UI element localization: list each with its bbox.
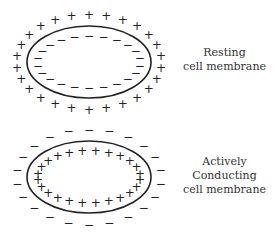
- minus-charge-outer: −: [18, 150, 28, 164]
- minus-charge-inner: −: [135, 51, 145, 65]
- minus-charge-outer: −: [12, 163, 22, 177]
- plus-charge-inner: +: [115, 191, 125, 205]
- minus-charge-outer: −: [84, 218, 94, 232]
- plus-charge-inner: +: [64, 194, 74, 208]
- plus-charge-outer: +: [156, 49, 166, 63]
- minus-charge-inner: −: [69, 80, 79, 94]
- plus-charge-outer: +: [84, 8, 94, 22]
- resting-membrane-figure: ++++++++++++++++++++++++++−−−−−−−−−−−−−−…: [12, 8, 166, 117]
- plus-charge-outer: +: [118, 97, 128, 111]
- minus-charge-outer: −: [84, 123, 94, 137]
- minus-charge-inner: −: [98, 30, 108, 44]
- membrane-diagram: ++++++++++++++++++++++++++−−−−−−−−−−−−−−…: [0, 0, 277, 235]
- plus-charge-inner: +: [91, 144, 101, 158]
- minus-charge-outer: −: [18, 190, 28, 204]
- plus-charge-outer: +: [132, 91, 142, 105]
- plus-charge-inner: +: [53, 191, 63, 205]
- plus-charge-inner: +: [104, 146, 114, 160]
- resting-membrane-label: Resting cell membrane: [172, 46, 277, 74]
- minus-charge-outer: −: [64, 216, 74, 230]
- plus-charge-outer: +: [36, 19, 46, 33]
- plus-charge-outer: +: [67, 101, 77, 115]
- minus-charge-outer: −: [156, 177, 166, 191]
- minus-charge-outer: −: [123, 130, 133, 144]
- minus-charge-inner: −: [56, 33, 66, 47]
- minus-charge-inner: −: [84, 29, 94, 43]
- minus-charge-outer: −: [104, 216, 114, 230]
- label-line: Resting: [172, 46, 277, 60]
- resting-membrane-charges: ++++++++++++++++++++++++++−−−−−−−−−−−−−−…: [12, 8, 166, 117]
- minus-charge-outer: −: [156, 163, 166, 177]
- minus-charge-outer: −: [104, 124, 114, 138]
- minus-charge-inner: −: [123, 72, 133, 86]
- active-membrane-label: Actively Conducting cell membrane: [172, 155, 277, 197]
- minus-charge-inner: −: [112, 77, 122, 91]
- plus-charge-outer: +: [118, 13, 128, 27]
- minus-charge-outer: −: [45, 130, 55, 144]
- plus-charge-outer: +: [50, 97, 60, 111]
- label-line: Actively: [172, 155, 277, 169]
- minus-charge-outer: −: [150, 150, 160, 164]
- plus-charge-outer: +: [144, 82, 154, 96]
- minus-charge-inner: −: [56, 77, 66, 91]
- minus-charge-outer: −: [29, 201, 39, 215]
- minus-charge-inner: −: [98, 80, 108, 94]
- active-membrane-charges: −−−−−−−−−−−−−−−−−−−−−−++++++++++++++++++…: [12, 123, 166, 232]
- plus-charge-inner: +: [91, 196, 101, 210]
- plus-charge-inner: +: [64, 146, 74, 160]
- plus-charge-outer: +: [50, 13, 60, 27]
- plus-charge-inner: +: [77, 144, 87, 158]
- active-membrane-figure: −−−−−−−−−−−−−−−−−−−−−−++++++++++++++++++…: [12, 123, 166, 232]
- plus-charge-outer: +: [101, 9, 111, 23]
- label-line: Conducting: [172, 169, 277, 183]
- plus-charge-outer: +: [36, 91, 46, 105]
- plus-charge-outer: +: [67, 9, 77, 23]
- plus-charge-inner: +: [135, 167, 145, 181]
- label-line: cell membrane: [172, 183, 277, 197]
- minus-charge-outer: −: [139, 139, 149, 153]
- minus-charge-outer: −: [150, 190, 160, 204]
- plus-charge-outer: +: [132, 19, 142, 33]
- plus-charge-inner: +: [125, 186, 135, 200]
- active-membrane-ellipse: [27, 141, 151, 213]
- minus-charge-outer: −: [64, 124, 74, 138]
- minus-charge-outer: −: [12, 177, 22, 191]
- minus-charge-outer: −: [139, 201, 149, 215]
- minus-charge-outer: −: [45, 210, 55, 224]
- label-line: cell membrane: [172, 60, 277, 74]
- minus-charge-inner: −: [45, 38, 55, 52]
- minus-charge-inner: −: [112, 33, 122, 47]
- minus-charge-outer: −: [29, 139, 39, 153]
- plus-charge-inner: +: [104, 194, 114, 208]
- plus-charge-outer: +: [24, 28, 34, 42]
- plus-charge-inner: +: [53, 149, 63, 163]
- minus-charge-inner: −: [69, 30, 79, 44]
- plus-charge-outer: +: [101, 101, 111, 115]
- plus-charge-outer: +: [84, 103, 94, 117]
- minus-charge-outer: −: [123, 210, 133, 224]
- plus-charge-inner: +: [77, 196, 87, 210]
- minus-charge-inner: −: [84, 81, 94, 95]
